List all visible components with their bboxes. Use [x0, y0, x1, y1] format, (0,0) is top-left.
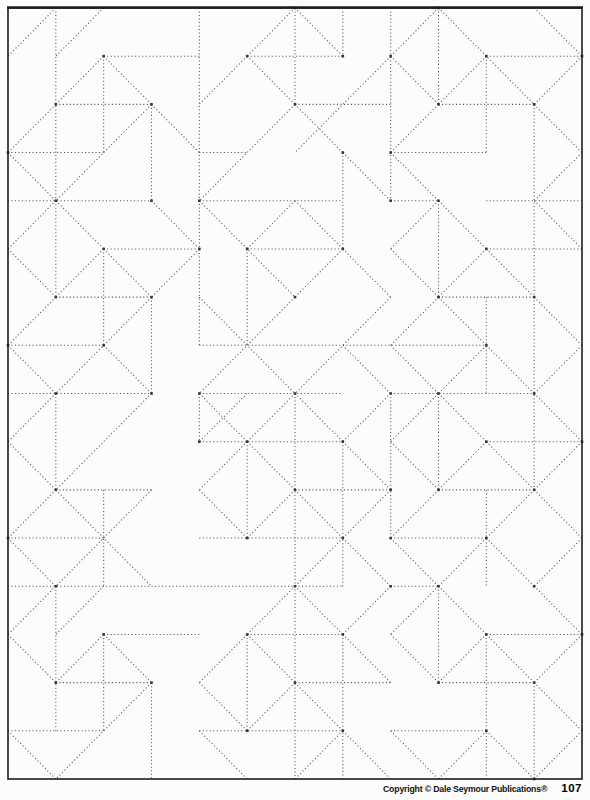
junction-dot	[198, 248, 201, 251]
pattern-line	[199, 394, 247, 442]
pattern-line	[8, 538, 56, 586]
junction-dot	[246, 537, 249, 540]
pattern-line	[391, 490, 439, 538]
pattern-line	[439, 394, 487, 442]
junction-dot	[198, 392, 201, 395]
pattern-line	[391, 538, 439, 586]
junction-dot	[389, 55, 392, 58]
pattern-line	[534, 297, 582, 345]
pattern-line	[247, 8, 295, 56]
pattern-line	[343, 345, 391, 393]
pattern-line	[199, 634, 247, 682]
pattern-line	[8, 201, 56, 249]
pattern-line	[439, 634, 487, 682]
junction-dot	[485, 537, 488, 540]
pattern-line	[534, 153, 582, 201]
junction-dot	[55, 585, 58, 588]
pattern-worksheet-page: Copyright © Dale Seymour Publications® 1…	[0, 0, 590, 800]
pattern-line	[486, 490, 534, 538]
junction-dot	[246, 633, 249, 636]
pattern-line	[391, 586, 439, 634]
pattern-line	[56, 201, 104, 249]
pattern-line	[391, 345, 439, 393]
junction-dot	[485, 633, 488, 636]
junction-dot	[389, 151, 392, 154]
pattern-line	[152, 104, 200, 152]
pattern-line	[199, 56, 247, 104]
pattern-line	[391, 394, 439, 442]
junction-dot	[342, 248, 345, 251]
junction-dot	[150, 199, 153, 202]
pattern-line	[8, 153, 56, 201]
junction-dot	[533, 681, 536, 684]
pattern-line	[8, 442, 56, 490]
junction-dot	[102, 633, 105, 636]
pattern-line	[8, 586, 56, 634]
pattern-line	[391, 104, 439, 152]
pattern-line	[104, 56, 152, 104]
pattern-line	[56, 8, 104, 56]
junction-dot	[55, 199, 58, 202]
pattern-line	[8, 345, 56, 393]
pattern-line	[247, 394, 295, 442]
pattern-line	[486, 731, 534, 779]
junction-dot	[246, 248, 249, 251]
junction-dot	[294, 489, 297, 492]
pattern-line	[391, 56, 439, 104]
pattern-line	[56, 394, 152, 490]
pattern-line	[8, 394, 56, 442]
pattern-line	[152, 201, 200, 249]
junction-dot	[246, 440, 249, 443]
junction-dot	[294, 392, 297, 395]
pattern-line	[534, 56, 582, 104]
pattern-line	[439, 538, 487, 586]
pattern-line	[56, 104, 152, 200]
pattern-line	[8, 634, 56, 682]
pattern-line	[104, 249, 152, 297]
pattern-line	[295, 586, 343, 634]
pattern-line	[343, 490, 391, 538]
junction-dot	[485, 344, 488, 347]
pattern-line	[534, 490, 582, 538]
pattern-line	[439, 249, 487, 297]
pattern-line	[295, 8, 343, 56]
pattern-line	[104, 634, 152, 682]
pattern-line	[247, 683, 295, 731]
junction-dot	[342, 55, 345, 58]
junction-dot	[198, 440, 201, 443]
pattern-line	[534, 538, 582, 586]
junction-dot	[150, 392, 153, 395]
junction-dot	[437, 103, 440, 106]
pattern-line	[247, 634, 295, 682]
pattern-line	[343, 153, 391, 201]
pattern-line	[247, 201, 295, 249]
pattern-line	[391, 731, 439, 779]
junction-dot	[342, 537, 345, 540]
pattern-line	[295, 538, 343, 586]
junction-dot	[294, 103, 297, 106]
pattern-line	[439, 201, 487, 249]
pattern-line	[343, 586, 391, 634]
junction-dot	[55, 392, 58, 395]
junction-dot	[437, 296, 440, 299]
junction-dot	[294, 585, 297, 588]
junction-dot	[485, 55, 488, 58]
pattern-line	[486, 538, 534, 586]
junction-dot	[102, 344, 105, 347]
pattern-line	[534, 442, 582, 490]
junction-dot	[342, 151, 345, 154]
junction-dot	[389, 199, 392, 202]
pattern-line	[199, 394, 247, 442]
junction-dot	[485, 248, 488, 251]
junction-dot	[533, 585, 536, 588]
pattern-line	[247, 442, 295, 490]
junction-dot	[485, 440, 488, 443]
pattern-line	[199, 490, 247, 538]
pattern-junction-dots	[7, 7, 584, 781]
pattern-line	[343, 249, 391, 297]
pattern-line	[534, 201, 582, 249]
pattern-line	[295, 249, 343, 297]
junction-dot	[437, 585, 440, 588]
pattern-line	[56, 249, 104, 297]
pattern-line	[534, 586, 582, 634]
